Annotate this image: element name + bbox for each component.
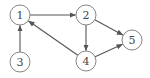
edge-4-to-1 xyxy=(29,21,78,55)
edges-group xyxy=(20,15,123,57)
node-label: 5 xyxy=(129,34,136,47)
node-label: 1 xyxy=(17,9,24,22)
node-3: 3 xyxy=(10,52,30,72)
node-4: 4 xyxy=(76,51,96,71)
node-label: 4 xyxy=(83,55,90,68)
nodes-group: 12345 xyxy=(10,5,142,72)
node-2: 2 xyxy=(76,5,96,25)
node-label: 2 xyxy=(83,9,90,22)
node-label: 3 xyxy=(17,56,24,69)
graph-diagram: 12345 xyxy=(0,0,150,78)
node-1: 1 xyxy=(10,5,30,25)
edge-4-to-5 xyxy=(95,44,122,56)
edge-2-to-5 xyxy=(95,20,123,35)
node-5: 5 xyxy=(122,30,142,50)
